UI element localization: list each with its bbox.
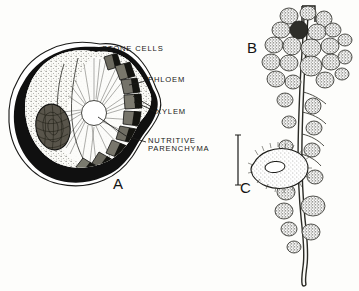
panel-a-artwork [9, 42, 161, 185]
scale-bar [235, 135, 241, 185]
nodule-cluster-upper [262, 6, 352, 89]
callout-stone-cells: STONE CELLS [102, 45, 164, 53]
panel-letter-b: B [247, 40, 257, 56]
callout-nutritive-parenchyma: NUTRITIVE PARENCHYMA [148, 137, 210, 153]
central-lumen [82, 101, 107, 126]
figure-root: STONE CELLS PHLOEM XYLEM NUTRITIVE PAREN… [0, 0, 359, 291]
panel-letter-a: A [113, 176, 123, 192]
panel-letter-c: C [240, 180, 251, 196]
vascular-bundle [121, 78, 140, 94]
callout-phloem: PHLOEM [148, 76, 185, 84]
callout-xylem: XYLEM [156, 108, 186, 116]
panel-b-artwork [262, 6, 352, 284]
vascular-bundle [123, 111, 141, 126]
